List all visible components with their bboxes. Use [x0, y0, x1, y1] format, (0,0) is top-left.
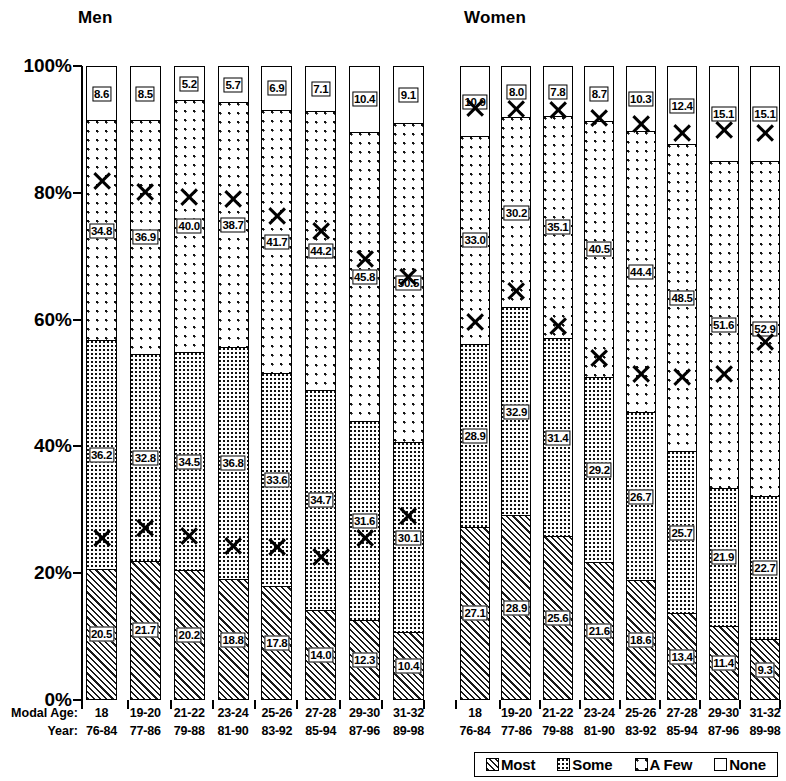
bar-segment-a-few: 45.8	[350, 133, 379, 422]
stacked-bar[interactable]: 9.322.752.915.1	[750, 66, 780, 700]
bar-segment-value: 13.4	[670, 649, 695, 664]
bar-segment-value: 28.9	[504, 600, 529, 615]
bar-segment-value: 6.9	[267, 81, 286, 96]
bar-segment-value: 8.0	[507, 84, 526, 99]
bar-segment-some: 31.6	[350, 422, 379, 622]
plot-area-women: 27.128.933.010.928.932.930.28.025.631.43…	[460, 66, 780, 700]
stacked-bar[interactable]: 25.631.435.17.8	[543, 66, 573, 700]
stacked-bar[interactable]: 20.234.540.05.2	[174, 66, 205, 700]
legend-label: Most	[501, 756, 535, 773]
y-tick-label: 20%	[34, 562, 72, 584]
bar-segment-value: 5.7	[223, 77, 242, 92]
bar-segment-value: 34.7	[308, 493, 333, 508]
bar-segment-most: 17.8	[262, 587, 291, 699]
bar-segment-a-few: 44.4	[627, 132, 655, 413]
x-tick	[739, 700, 741, 709]
bar-segment-a-few: 41.7	[262, 111, 291, 375]
bar-segment-most: 20.5	[87, 570, 116, 699]
bar-segment-value: 44.2	[308, 244, 333, 259]
bar-segment-value: 32.9	[504, 404, 529, 419]
stacked-bar[interactable]: 11.421.951.615.1	[709, 66, 739, 700]
bar-segment-some: 26.7	[627, 413, 655, 582]
stacked-bar[interactable]: 21.732.836.98.5	[130, 66, 161, 700]
bar-segment-value: 18.6	[628, 633, 653, 648]
stacked-bar[interactable]: 20.536.234.88.6	[86, 66, 117, 700]
bar-segment-value: 40.0	[177, 219, 202, 234]
x-tick	[381, 700, 383, 709]
bar-segment-most: 9.3	[751, 640, 779, 699]
bar-segment-some: 36.2	[87, 341, 116, 570]
x-tick	[579, 700, 581, 709]
bar-segment-value: 15.1	[711, 107, 736, 122]
bar-segment-value: 9.1	[399, 88, 418, 103]
bar-segment-value: 8.6	[92, 86, 111, 101]
legend-label: None	[729, 756, 766, 773]
bar-segment-a-few: 44.2	[306, 112, 335, 391]
x-tick	[619, 700, 621, 709]
bar-segment-most: 21.6	[585, 563, 613, 700]
bar-segment-value: 20.2	[177, 628, 202, 643]
stacked-bar[interactable]: 18.836.838.75.7	[218, 66, 249, 700]
y-tick	[73, 192, 82, 194]
bar-segment-a-few: 33.0	[461, 137, 489, 346]
legend-item: None	[714, 756, 766, 773]
stacked-bar[interactable]: 13.425.748.512.4	[667, 66, 697, 700]
y-tick-label: 40%	[34, 435, 72, 457]
bar-segment-value: 33.0	[462, 233, 487, 248]
bar-segment-some: 25.7	[668, 452, 696, 614]
bar-segment-a-few: 35.1	[544, 117, 572, 339]
bar-segment-none: 7.8	[544, 68, 572, 117]
bar-segment-none: 8.0	[502, 67, 530, 118]
bar-segment-most: 11.4	[710, 627, 738, 699]
bar-segment-value: 30.1	[396, 530, 421, 545]
x-tick	[699, 700, 701, 709]
bar-segment-a-few: 40.5	[585, 122, 613, 378]
stacked-bar[interactable]: 21.629.240.58.7	[584, 66, 614, 700]
bar-segment-value: 7.8	[548, 84, 567, 99]
bar-segment-a-few: 34.8	[87, 121, 116, 341]
row-label-modal-age: Modal Age:	[0, 706, 78, 720]
bar-segment-none: 5.7	[219, 67, 248, 103]
bar-segment-value: 20.5	[89, 627, 114, 642]
bar-segment-none: 15.1	[751, 67, 779, 162]
panel-women: Women 27.128.933.010.928.932.930.28.025.…	[440, 0, 786, 781]
panel-title-men: Men	[78, 8, 113, 28]
bar-segment-most: 10.4	[394, 633, 423, 699]
bar-segment-value: 34.8	[89, 223, 114, 238]
bar-segment-value: 8.7	[590, 87, 609, 102]
bar-segment-value: 38.7	[220, 217, 245, 232]
legend-item: A Few	[635, 756, 693, 773]
bar-segment-most: 18.6	[627, 581, 655, 699]
bar-segment-value: 28.9	[462, 428, 487, 443]
bar-segment-none: 10.9	[461, 68, 489, 137]
bar-segment-value: 26.7	[628, 489, 653, 504]
x-tick	[296, 700, 298, 709]
bar-segment-value: 25.7	[670, 525, 695, 540]
bar-segment-value: 15.1	[752, 107, 777, 122]
x-tick	[539, 700, 541, 709]
bar-segment-some: 31.4	[544, 339, 572, 537]
bar-segment-value: 21.6	[587, 623, 612, 638]
bar-segment-most: 25.6	[544, 537, 572, 699]
panel-title-women: Women	[464, 8, 526, 28]
stacked-bar[interactable]: 18.626.744.410.3	[626, 66, 656, 700]
stacked-bar[interactable]: 10.430.150.59.1	[393, 66, 424, 700]
stacked-bar[interactable]: 14.034.744.27.1	[305, 66, 336, 700]
bar-segment-value: 25.6	[545, 611, 570, 626]
bar-segment-most: 21.7	[131, 562, 160, 699]
bar-segment-none: 5.2	[175, 68, 204, 101]
y-tick	[73, 445, 82, 447]
bar-segment-value: 21.7	[133, 623, 158, 638]
stacked-bar[interactable]: 12.331.645.810.4	[349, 66, 380, 700]
x-tick	[170, 700, 172, 709]
stacked-bar[interactable]: 28.932.930.28.0	[501, 66, 531, 700]
stacked-bar[interactable]: 17.833.641.76.9	[261, 66, 292, 700]
bar-segment-none: 6.9	[262, 67, 291, 111]
stacked-bar[interactable]: 27.128.933.010.9	[460, 66, 490, 700]
bar-segment-none: 9.1	[394, 67, 423, 124]
bar-segment-a-few: 40.0	[175, 101, 204, 354]
bar-segment-value: 50.5	[396, 276, 421, 291]
x-tick	[339, 700, 341, 709]
y-axis-line-men	[81, 66, 83, 700]
bar-segment-some: 34.7	[306, 391, 335, 610]
